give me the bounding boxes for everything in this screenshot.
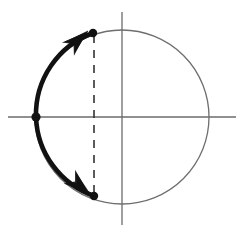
left-point-marker	[31, 112, 40, 121]
lower-point-marker	[90, 192, 98, 200]
figure-container	[0, 0, 244, 238]
upper-point-marker	[89, 29, 97, 37]
bold-arc	[36, 33, 94, 196]
circle-diagram	[0, 0, 244, 238]
